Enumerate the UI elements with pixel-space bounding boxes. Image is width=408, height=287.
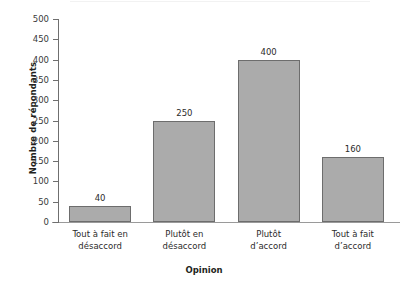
x-axis-title: Opinion bbox=[0, 265, 408, 275]
bar-value-label: 40 bbox=[49, 193, 151, 203]
y-axis-tick-label: 150 bbox=[0, 161, 49, 162]
y-axis-tick-label: 100 bbox=[0, 181, 49, 182]
bar bbox=[322, 157, 384, 222]
bar bbox=[69, 206, 131, 222]
x-axis-category-label: Plutôtd’accord bbox=[227, 229, 311, 252]
y-axis-tick-label: 450 bbox=[0, 39, 49, 40]
x-axis-category-label: Plutôt endésaccord bbox=[142, 229, 226, 252]
y-axis-tick-label: 500 bbox=[0, 19, 49, 20]
y-axis-tick-label: 200 bbox=[0, 141, 49, 142]
x-axis-category-label: Tout à fait endésaccord bbox=[58, 229, 142, 252]
bar-value-label: 400 bbox=[218, 47, 320, 57]
y-axis-tick-label: 50 bbox=[0, 202, 49, 203]
y-axis-tick-label: 0 bbox=[0, 222, 49, 223]
y-axis-tick-label: 350 bbox=[0, 80, 49, 81]
x-axis-category-label-line: Tout à fait bbox=[311, 229, 395, 241]
y-axis-tick-label: 400 bbox=[0, 60, 49, 61]
bar-value-label: 160 bbox=[302, 144, 404, 154]
x-axis-category-label-line: d’accord bbox=[227, 241, 311, 253]
x-axis-category-label-line: Tout à fait en bbox=[58, 229, 142, 241]
bar-value-label: 250 bbox=[133, 108, 235, 118]
x-axis-category-label-line: désaccord bbox=[142, 241, 226, 253]
y-axis-tick-label: 250 bbox=[0, 121, 49, 122]
bar bbox=[238, 60, 300, 222]
y-axis-tick bbox=[53, 222, 59, 223]
x-axis-line bbox=[52, 222, 400, 223]
y-axis-tick-label: 300 bbox=[0, 100, 49, 101]
bar bbox=[153, 121, 215, 223]
x-axis-category-label-line: d’accord bbox=[311, 241, 395, 253]
figure-top-rule bbox=[70, 1, 370, 2]
x-axis-category-label-line: Plutôt en bbox=[142, 229, 226, 241]
x-axis-category-label-line: désaccord bbox=[58, 241, 142, 253]
x-axis-category-label: Tout à faitd’accord bbox=[311, 229, 395, 252]
x-axis-category-label-line: Plutôt bbox=[227, 229, 311, 241]
bar-chart: Nombre de répondants 0501001502002503003… bbox=[0, 0, 408, 287]
